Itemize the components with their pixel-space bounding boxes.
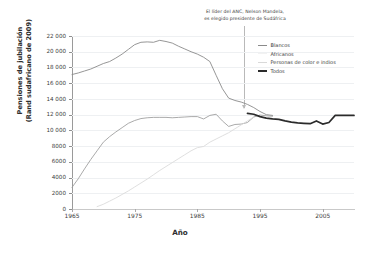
series-line <box>72 40 273 115</box>
annotation-line-1: El líder del ANC, Nelson Mandela, <box>186 9 304 16</box>
series-line <box>72 114 273 187</box>
legend-item[interactable]: Todos <box>258 67 336 76</box>
y-tick-label: 16 000 <box>26 80 66 86</box>
y-tick-label: 10 000 <box>26 127 66 133</box>
x-tick-label: 1965 <box>52 213 92 219</box>
y-tick-label: 4000 <box>26 174 66 180</box>
y-tick-label: 0 <box>26 206 66 212</box>
annotation-line-2: es elegido presidente de Sudáfrica <box>186 16 304 23</box>
legend-swatch-icon <box>258 70 267 72</box>
series-line <box>97 117 254 207</box>
x-tick-label: 1985 <box>177 213 217 219</box>
legend-label: Blancos <box>271 42 290 48</box>
y-tick-label: 12 000 <box>26 111 66 117</box>
x-tick-label: 1995 <box>240 213 280 219</box>
legend-label: Africanos <box>271 51 294 57</box>
legend-item[interactable]: Blancos <box>258 41 336 50</box>
y-tick-label: 18 000 <box>26 64 66 70</box>
y-axis-title-line-1: Pensiones de jubilación <box>16 0 25 156</box>
legend-swatch-icon <box>258 45 267 46</box>
x-axis-title: Año <box>120 228 240 237</box>
legend-swatch-icon <box>258 62 267 63</box>
legend-item[interactable]: Personas de color e indios <box>258 58 336 67</box>
legend-label: Todos <box>271 68 285 74</box>
legend-swatch-icon <box>258 53 267 54</box>
y-tick-label: 2000 <box>26 190 66 196</box>
y-tick-label: 6000 <box>26 158 66 164</box>
retirement-pensions-line-chart: El líder del ANC, Nelson Mandela, es ele… <box>0 0 365 253</box>
annotation-text: El líder del ANC, Nelson Mandela, es ele… <box>186 9 304 22</box>
y-tick-label: 14 000 <box>26 96 66 102</box>
x-tick-mark <box>197 209 198 212</box>
legend-label: Personas de color e indios <box>271 59 336 65</box>
x-tick-mark <box>323 209 324 212</box>
y-tick-label: 22 000 <box>26 33 66 39</box>
x-tick-mark <box>260 209 261 212</box>
y-tick-label: 20 000 <box>26 48 66 54</box>
x-tick-mark <box>72 209 73 212</box>
x-tick-label: 2005 <box>303 213 343 219</box>
x-tick-label: 1975 <box>115 213 155 219</box>
y-tick-label: 8000 <box>26 143 66 149</box>
x-axis-spine <box>72 209 355 210</box>
chart-legend: BlancosAfricanosPersonas de color e indi… <box>258 41 336 75</box>
legend-item[interactable]: Africanos <box>258 50 336 59</box>
x-tick-mark <box>135 209 136 212</box>
